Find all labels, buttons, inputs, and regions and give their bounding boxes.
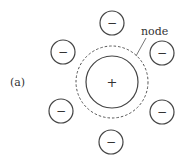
node-leader-line — [136, 38, 146, 56]
minus-sign: − — [58, 45, 68, 59]
negative-ion-upper-left: − — [51, 40, 75, 64]
negative-ion-bottom: − — [99, 130, 123, 154]
node-label: node — [141, 25, 168, 38]
plus-sign: + — [107, 75, 118, 90]
panel-label: (a) — [10, 76, 25, 89]
minus-sign: − — [157, 105, 167, 119]
central-positive-ion: + — [86, 56, 138, 108]
minus-sign: − — [106, 135, 116, 149]
negative-ion-upper-right: − — [150, 41, 174, 65]
negative-ion-lower-left: − — [49, 99, 73, 123]
negative-ion-lower-right: − — [150, 100, 174, 124]
minus-sign: − — [157, 46, 167, 60]
minus-sign: − — [107, 16, 117, 30]
ion-node-diagram: + − − − − − − node (a) — [0, 0, 184, 167]
negative-ion-top: − — [100, 11, 124, 35]
minus-sign: − — [56, 104, 66, 118]
